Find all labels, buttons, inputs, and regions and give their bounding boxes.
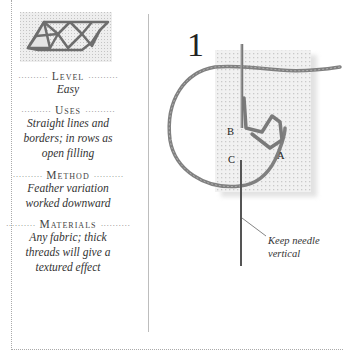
- bottom-dotted-border: [11, 349, 343, 350]
- uses-text: Straight lines and borders; in rows as o…: [0, 116, 136, 161]
- section-level: ·········· Level ·········· Easy: [0, 70, 136, 97]
- section-method: ·········· Method ·········· Feather var…: [0, 169, 136, 211]
- callout-line-2: vertical: [268, 247, 320, 260]
- step-number: 1: [187, 28, 204, 62]
- uses-heading: ·········· Uses ··········: [0, 104, 136, 116]
- level-value: Easy: [0, 82, 136, 97]
- column-divider: [148, 14, 149, 332]
- method-heading: ·········· Method ··········: [0, 169, 136, 181]
- materials-text: Any fabric; thick threads will give a te…: [0, 230, 136, 275]
- point-label-c: C: [228, 154, 235, 165]
- method-text: Feather variation worked downward: [0, 181, 136, 211]
- section-uses: ·········· Uses ·········· Straight line…: [0, 104, 136, 161]
- section-materials: ·········· Materials ·········· Any fabr…: [0, 218, 136, 275]
- needle-callout: Keep needle vertical: [268, 234, 320, 260]
- point-label-a: A: [277, 150, 285, 161]
- level-heading: ·········· Level ··········: [0, 70, 136, 82]
- stitch-illustration: [150, 0, 343, 340]
- materials-heading: ·········· Materials ··········: [0, 218, 136, 230]
- page: ·········· Level ·········· Easy ·······…: [0, 0, 343, 361]
- point-label-b: B: [227, 126, 234, 137]
- stitch-sample-image: [20, 12, 112, 62]
- callout-line-1: Keep needle: [268, 234, 320, 247]
